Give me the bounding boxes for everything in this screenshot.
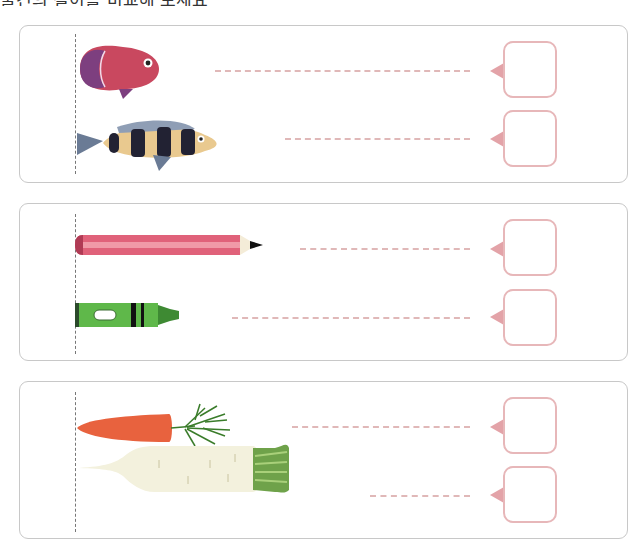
trace-line [370,495,470,497]
trace-line [215,70,470,72]
answer-box-carrot[interactable] [503,397,557,454]
carrot-image [75,400,240,448]
trace-line [300,248,470,250]
answer-box-radish[interactable] [503,466,557,523]
trace-line [232,317,470,319]
pointer-icon [490,131,504,147]
answer-box-striped-fish[interactable] [503,110,557,167]
round-fish-image [75,39,165,101]
panel-writing-tools [19,203,628,361]
panel-vegetables [19,381,628,539]
trace-line [292,426,470,428]
pointer-icon [490,309,504,325]
trace-line [285,138,470,140]
pointer-icon [490,419,504,435]
pencil-image [75,233,265,257]
pointer-icon [490,63,504,79]
radish-image [75,442,315,496]
answer-box-pencil[interactable] [503,219,557,276]
answer-box-round-fish[interactable] [503,41,557,98]
pointer-icon [490,241,504,257]
striped-fish-image [75,113,225,173]
answer-box-crayon[interactable] [503,289,557,346]
worksheet-title: 물건의 길이를 비교해 보세요 [0,0,320,6]
crayon-image [75,301,185,329]
panel-fish [19,25,628,183]
pointer-icon [490,487,504,503]
